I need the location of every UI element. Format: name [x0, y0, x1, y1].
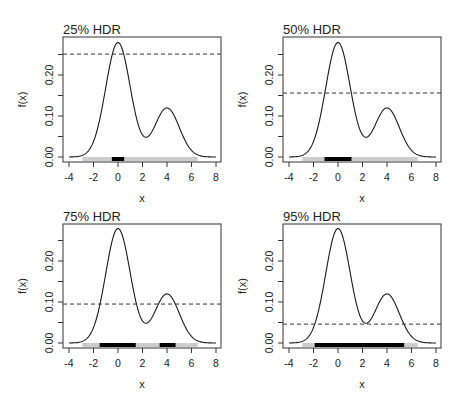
y-tick-label: 0.10: [263, 292, 275, 313]
x-tick-label: 4: [384, 171, 390, 183]
panel-4: 95% HDR-4-202468x0.000.100.20f(x): [236, 209, 441, 390]
x-axis-label: x: [359, 192, 365, 204]
y-tick-label: 0.20: [263, 65, 275, 86]
density-curve: [69, 42, 216, 156]
panel-1: 25% HDR-4-202468x0.000.100.20f(x): [16, 22, 221, 204]
x-axis-label: x: [139, 192, 145, 204]
plot-frame: [283, 37, 441, 162]
x-tick-label: -2: [89, 171, 98, 183]
y-axis-label: f(x): [236, 278, 248, 294]
plot-frame: [283, 224, 441, 348]
panel-2: 50% HDR-4-202468x0.000.100.20f(x): [236, 22, 441, 204]
plot-frame: [63, 37, 221, 162]
x-tick-label: 0: [335, 357, 341, 369]
x-tick-label: 4: [384, 357, 390, 369]
x-tick-label: 6: [409, 171, 415, 183]
density-curve: [69, 228, 216, 342]
y-axis-label: f(x): [16, 92, 28, 108]
y-tick-label: 0.10: [43, 106, 55, 127]
x-tick-label: 2: [140, 171, 146, 183]
x-tick-label: 6: [189, 171, 195, 183]
y-tick-label: 0.00: [43, 333, 55, 354]
x-tick-label: 2: [360, 171, 366, 183]
x-tick-label: -2: [309, 171, 318, 183]
panel-3: 75% HDR-4-202468x0.000.100.20f(x): [16, 209, 221, 390]
plot-frame: [63, 224, 221, 348]
x-tick-label: 0: [335, 171, 341, 183]
x-tick-label: -2: [309, 357, 318, 369]
x-tick-label: 6: [189, 357, 195, 369]
y-tick-label: 0.20: [43, 65, 55, 86]
density-curve: [289, 228, 436, 342]
y-tick-label: 0.00: [43, 147, 55, 168]
x-tick-label: 6: [409, 357, 415, 369]
x-tick-label: 0: [115, 171, 121, 183]
y-axis-label: f(x): [236, 92, 248, 108]
y-tick-label: 0.20: [43, 251, 55, 272]
y-axis-label: f(x): [16, 278, 28, 294]
x-tick-label: -4: [64, 357, 73, 369]
x-tick-label: -4: [284, 357, 293, 369]
x-tick-label: 8: [213, 171, 219, 183]
density-curve: [289, 42, 436, 156]
x-tick-label: 8: [433, 171, 439, 183]
panel-title: 75% HDR: [63, 209, 121, 224]
panel-title: 50% HDR: [283, 22, 341, 37]
x-tick-label: 2: [140, 357, 146, 369]
x-tick-label: 2: [360, 357, 366, 369]
x-axis-label: x: [139, 378, 145, 390]
y-tick-label: 0.00: [263, 147, 275, 168]
x-tick-label: 8: [433, 357, 439, 369]
x-tick-label: 4: [164, 171, 170, 183]
y-tick-label: 0.10: [43, 292, 55, 313]
y-tick-label: 0.20: [263, 251, 275, 272]
y-tick-label: 0.10: [263, 106, 275, 127]
panel-title: 95% HDR: [283, 209, 341, 224]
hdr-figure: 25% HDR-4-202468x0.000.100.20f(x)50% HDR…: [0, 0, 462, 410]
x-tick-label: -4: [64, 171, 73, 183]
x-tick-label: -4: [284, 171, 293, 183]
y-tick-label: 0.00: [263, 333, 275, 354]
x-axis-label: x: [359, 378, 365, 390]
panel-title: 25% HDR: [63, 22, 121, 37]
x-tick-label: 0: [115, 357, 121, 369]
x-tick-label: 8: [213, 357, 219, 369]
x-tick-label: -2: [89, 357, 98, 369]
x-tick-label: 4: [164, 357, 170, 369]
